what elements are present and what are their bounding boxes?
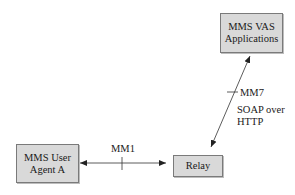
relay-node: Relay [173,155,223,177]
mm7-protocol-line2: HTTP [237,116,263,128]
node-label: Relay [186,160,211,172]
mms-user-agent-a-node: MMS User Agent A [16,144,79,183]
mm7-protocol-line1: SOAP over [237,104,285,116]
mm7-connector [211,56,250,147]
node-label-line1: MMS User [24,152,71,164]
node-label-line1: MMS VAS [228,21,275,33]
mm7-label: MM7 [240,87,264,99]
node-label-line2: Agent A [30,164,65,176]
mms-vas-applications-node: MMS VAS Applications [220,13,283,53]
node-label-line2: Applications [225,33,279,45]
mm1-label: MM1 [111,143,135,155]
